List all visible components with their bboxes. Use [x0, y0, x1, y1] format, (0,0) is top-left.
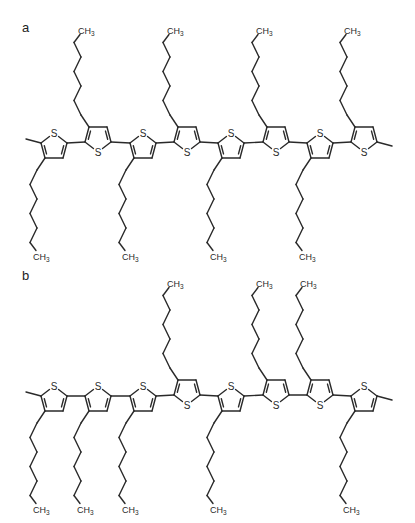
hexyl-bond: [30, 496, 36, 504]
methyl-terminal-label: CH3: [77, 505, 94, 516]
hexyl-bond: [30, 481, 37, 496]
hexyl-bond: [30, 467, 37, 482]
methyl-terminal-label: CH3: [344, 26, 361, 37]
hexyl-bond: [163, 339, 170, 354]
hexyl-bond: [163, 35, 169, 43]
hexyl-bond: [74, 72, 81, 87]
ring-double-bond: [266, 384, 268, 392]
hexyl-bond: [74, 43, 81, 58]
ring-double-bond: [194, 384, 196, 392]
ring-double-bond: [354, 399, 356, 407]
ring-bond: [281, 395, 289, 402]
hexyl-bond: [296, 325, 303, 340]
hexyl-bond: [119, 481, 126, 496]
hexyl-bond: [119, 199, 126, 214]
hexyl-bond: [259, 368, 267, 380]
hexyl-bond: [81, 115, 89, 127]
ring-bond: [41, 390, 49, 397]
inter-ring-bond: [333, 142, 351, 143]
ring-bond: [307, 395, 315, 402]
sulfur-atom-label: S: [228, 128, 235, 139]
ring-bond: [174, 142, 182, 149]
hexyl-bond: [170, 368, 178, 380]
hexyl-bond: [170, 115, 178, 127]
hexyl-bond: [119, 423, 126, 438]
hexyl-bond: [74, 452, 81, 467]
hexyl-bond: [119, 438, 126, 453]
thiophene-ring: SCH3: [74, 381, 111, 516]
sulfur-atom-label: S: [140, 381, 147, 392]
hexyl-bond: [340, 86, 347, 101]
methyl-terminal-label: CH3: [78, 26, 95, 37]
hexyl-bond: [347, 115, 355, 127]
hexyl-bond: [207, 467, 214, 482]
hexyl-bond: [126, 158, 134, 170]
thiophene-ring: SCH3: [252, 26, 289, 159]
methyl-terminal-label: CH3: [343, 505, 360, 516]
hexyl-bond: [207, 185, 214, 200]
hexyl-bond: [340, 481, 347, 496]
hexyl-bond: [303, 368, 311, 380]
ring-bond: [351, 142, 359, 149]
ring-bond: [103, 390, 111, 397]
hexyl-bond: [119, 467, 126, 482]
hexyl-bond: [207, 423, 214, 438]
ring-double-bond: [310, 146, 312, 154]
hexyl-bond: [252, 43, 259, 58]
hexyl-bond: [30, 438, 37, 453]
hexyl-bond: [207, 214, 214, 229]
hexyl-bond: [126, 411, 134, 423]
hexyl-bond: [340, 423, 347, 438]
ring-double-bond: [221, 399, 223, 407]
ring-double-bond: [44, 146, 46, 154]
panel-label-b: b: [22, 268, 29, 283]
ring-double-bond: [221, 146, 223, 154]
hexyl-bond: [119, 452, 126, 467]
hexyl-bond: [252, 35, 258, 43]
methyl-terminal-label: CH3: [167, 26, 184, 37]
terminal-methyl-bond: [377, 142, 392, 146]
hexyl-bond: [30, 423, 37, 438]
ring-bond: [281, 142, 289, 149]
sulfur-atom-label: S: [184, 147, 191, 158]
methyl-terminal-label: CH3: [33, 252, 50, 263]
hexyl-bond: [74, 423, 81, 438]
hexyl-bond: [303, 158, 311, 170]
terminal-methyl-bond: [377, 396, 392, 400]
inter-ring-bond: [200, 142, 218, 143]
ring-bond: [351, 390, 359, 397]
ring-bond: [192, 142, 200, 149]
ring-bond: [41, 137, 49, 144]
thiophene-ring: SCH3: [30, 381, 67, 516]
hexyl-bond: [30, 185, 37, 200]
inter-ring-bond: [156, 142, 174, 143]
hexyl-bond: [252, 310, 259, 325]
ring-bond: [130, 390, 138, 397]
ring-bond: [192, 395, 200, 402]
hexyl-bond: [119, 214, 126, 229]
ring-double-bond: [105, 131, 107, 139]
ring-bond: [148, 390, 156, 397]
ring-double-bond: [88, 399, 90, 407]
thiophene-ring: SCH3: [340, 26, 377, 159]
thiophene-ring: SCH3: [30, 128, 67, 263]
inter-ring-bond: [244, 395, 263, 396]
ring-bond: [263, 395, 271, 402]
hexyl-bond: [340, 438, 347, 453]
inter-ring-bond: [289, 142, 307, 143]
hexyl-bond: [74, 57, 81, 72]
ring-bond: [218, 390, 226, 397]
thiophene-ring: SCH3: [74, 26, 111, 159]
hexyl-bond: [163, 288, 169, 296]
methyl-terminal-label: CH3: [299, 252, 316, 263]
hexyl-bond: [119, 170, 126, 185]
ring-double-bond: [194, 131, 196, 139]
methyl-terminal-label: CH3: [122, 505, 139, 516]
ring-double-bond: [266, 131, 268, 139]
ring-bond: [85, 390, 93, 397]
hexyl-bond: [207, 481, 214, 496]
methyl-terminal-label: CH3: [300, 279, 317, 290]
panel-label-a: a: [22, 20, 29, 35]
polythiophene-figure: a b SCH3SCH3SCH3SCH3SCH3SCH3SCH3SCH3 SCH…: [0, 0, 415, 523]
hexyl-bond: [340, 101, 347, 116]
